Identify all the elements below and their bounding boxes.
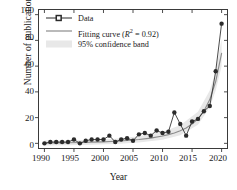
legend-fit-text-post: = 0.92) (133, 29, 159, 38)
data-point (66, 140, 70, 144)
data-point (101, 137, 105, 141)
data-point (95, 137, 99, 141)
data-point (196, 117, 200, 121)
data-point (78, 141, 82, 145)
data-point (60, 140, 64, 144)
x-axis-title: Year (0, 172, 237, 182)
data-point (119, 137, 123, 141)
data-point (190, 119, 194, 123)
data-point (154, 128, 158, 132)
data-point (54, 140, 58, 144)
x-tick-label-1995: 1995 (53, 153, 87, 163)
legend-fit-swatch (46, 26, 72, 36)
data-point (166, 130, 170, 134)
data-point (137, 132, 141, 136)
data-point (149, 133, 153, 137)
x-tick-label-2020: 2020 (201, 153, 235, 163)
legend-band-label: 95% confidence band (78, 40, 149, 49)
data-point (72, 137, 76, 141)
legend-data-label: Data (78, 14, 93, 23)
y-tick-label-20: 20 (12, 113, 34, 123)
data-point (42, 141, 46, 145)
legend-fit-label: Fitting curve (R2 = 0.92) (78, 27, 159, 39)
y-tick-label-100: 100 (12, 5, 34, 15)
publications-trend-chart: Number of publications Year 100 80 60 40… (0, 0, 237, 190)
data-point (143, 131, 147, 135)
data-point (131, 139, 135, 143)
data-point (172, 110, 176, 114)
data-point (48, 140, 52, 144)
legend-band-swatch (46, 39, 72, 49)
data-point (208, 104, 212, 108)
confidence-band (44, 39, 221, 145)
fitting-curve (44, 53, 221, 143)
y-tick-label-0: 0 (12, 140, 34, 150)
x-tick-label-2015: 2015 (171, 153, 205, 163)
data-point (202, 109, 206, 113)
x-tick-label-2005: 2005 (112, 153, 146, 163)
legend-data-swatch (46, 13, 72, 23)
data-point (178, 122, 182, 126)
y-tick-label-80: 80 (12, 32, 34, 42)
y-tick-label-40: 40 (12, 86, 34, 96)
legend-fit-text-pre: Fitting curve ( (78, 29, 125, 38)
data-point (219, 21, 223, 25)
data-point (213, 69, 217, 73)
data-point (107, 133, 111, 137)
data-point (184, 133, 188, 137)
data-point (125, 136, 129, 140)
data-point (160, 131, 164, 135)
data-point (89, 137, 93, 141)
data-point (113, 140, 117, 144)
data-point (84, 139, 88, 143)
y-tick-label-60: 60 (12, 59, 34, 69)
